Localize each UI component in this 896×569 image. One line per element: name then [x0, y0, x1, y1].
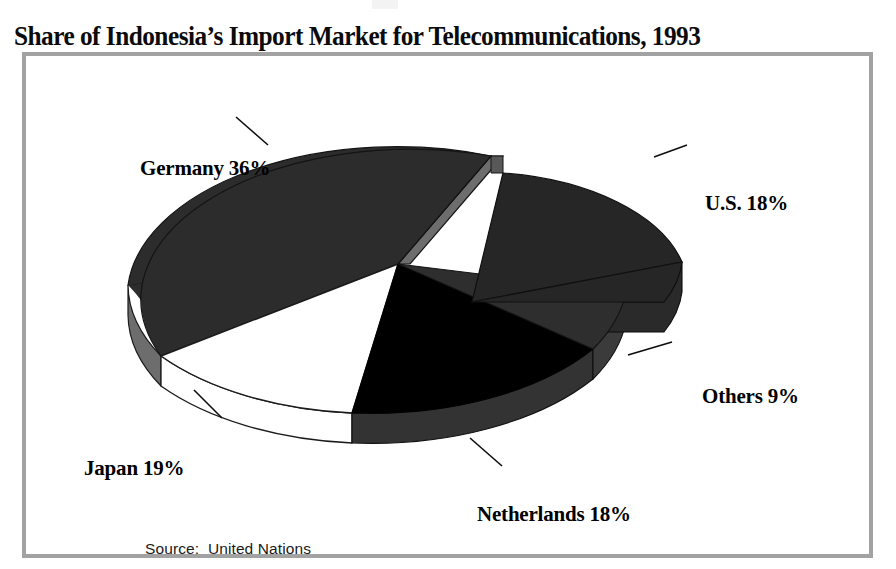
slice-label-germany: Germany 36%: [140, 156, 270, 181]
source-note: Source: United Nations: [145, 540, 311, 558]
leader-line-germany: [236, 117, 268, 145]
scan-artifact: [372, 0, 398, 9]
slice-label-others: Others 9%: [702, 384, 799, 409]
leader-line-netherlands: [470, 438, 502, 466]
pie-chart-svg: [22, 52, 873, 558]
leader-line-others: [628, 342, 672, 355]
plot-area: Germany 36% U.S. 18% Others 9% Netherlan…: [22, 52, 873, 558]
slice-label-japan: Japan 19%: [84, 456, 184, 481]
leader-line-us: [654, 145, 687, 157]
chart-figure: Share of Indonesia’s Import Market for T…: [0, 0, 896, 569]
slice-label-netherlands: Netherlands 18%: [477, 502, 631, 527]
slice-label-us: U.S. 18%: [705, 191, 788, 216]
page-title: Share of Indonesia’s Import Market for T…: [14, 21, 854, 52]
slice-wall-germany-gap-edge: [491, 156, 503, 173]
